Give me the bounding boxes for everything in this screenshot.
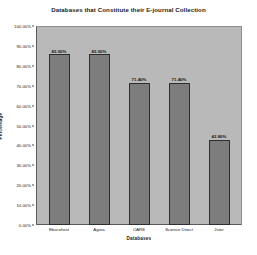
y-axis-tick-label: 20.00% <box>16 183 31 188</box>
bar: 71.40% <box>169 83 190 225</box>
y-axis-tick-label: 90.00% <box>16 43 31 48</box>
y-axis-tick-label: 10.00% <box>16 203 31 208</box>
y-axis-tick-label: 30.00% <box>16 163 31 168</box>
bar: 42.80% <box>209 140 230 225</box>
y-axis-tick-mark <box>32 145 34 146</box>
bar-slot: 71.40% <box>119 26 159 225</box>
y-axis-tick-mark <box>32 205 34 206</box>
y-axis-ticks: 0.00%10.00%20.00%30.00%40.00%50.00%60.00… <box>0 26 34 225</box>
bar-value-label: 85.90% <box>52 49 67 54</box>
y-axis-tick-label: 70.00% <box>16 83 31 88</box>
bar-slot: 42.80% <box>199 26 239 225</box>
chart-title: Databases that Constitute their E-journa… <box>0 6 257 14</box>
y-axis-tick-mark <box>32 105 34 106</box>
y-axis-tick-label: 60.00% <box>16 103 31 108</box>
y-axis-tick-label: 40.00% <box>16 143 31 148</box>
bar-value-label: 71.40% <box>132 77 147 82</box>
y-axis-tick-label: 50.00% <box>16 123 31 128</box>
bar-value-label: 85.90% <box>92 49 107 54</box>
y-axis-tick-label: 80.00% <box>16 63 31 68</box>
bar-value-label: 42.80% <box>212 134 227 139</box>
y-axis-tick-mark <box>32 225 34 226</box>
y-axis-tick-mark <box>32 185 34 186</box>
bar: 85.90% <box>49 54 70 225</box>
x-axis-title: Databases <box>36 236 242 241</box>
bar-series: 85.90%85.90%71.40%71.40%42.80% <box>36 26 242 225</box>
bar-slot: 85.90% <box>79 26 119 225</box>
y-axis-tick-mark <box>32 85 34 86</box>
plot-area-wrapper: 85.90%85.90%71.40%71.40%42.80% <box>36 26 242 225</box>
bar-chart-figure: Databases that Constitute their E-journa… <box>0 0 257 255</box>
y-axis-tick-label: 0.00% <box>19 223 31 228</box>
y-axis-tick-mark <box>32 26 34 27</box>
bar-slot: 71.40% <box>159 26 199 225</box>
y-axis-tick-mark <box>32 45 34 46</box>
bar: 71.40% <box>129 83 150 225</box>
y-axis-tick-mark <box>32 165 34 166</box>
bar: 85.90% <box>89 54 110 225</box>
y-axis-tick-mark <box>32 65 34 66</box>
bar-value-label: 71.40% <box>172 77 187 82</box>
bar-slot: 85.90% <box>39 26 79 225</box>
y-axis-tick-label: 100.00% <box>14 24 31 29</box>
y-axis-tick-mark <box>32 125 34 126</box>
